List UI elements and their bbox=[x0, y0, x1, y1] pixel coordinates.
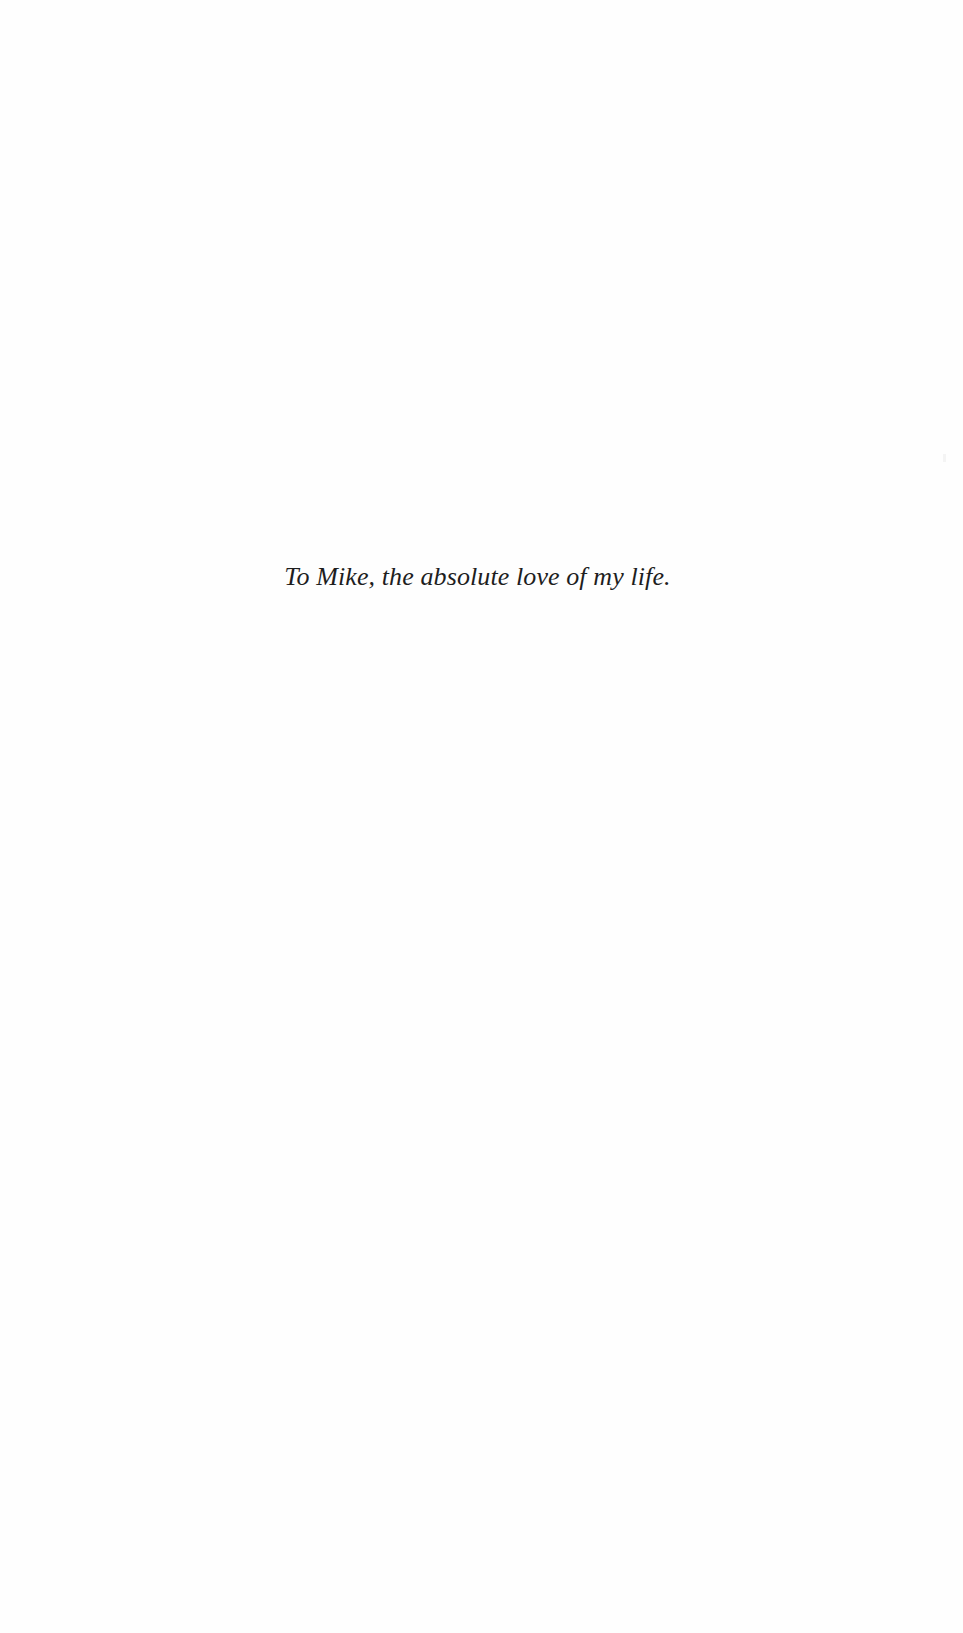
scan-artifact bbox=[943, 454, 946, 462]
book-page: To Mike, the absolute love of my life. bbox=[0, 0, 963, 1633]
dedication-text: To Mike, the absolute love of my life. bbox=[0, 560, 963, 594]
